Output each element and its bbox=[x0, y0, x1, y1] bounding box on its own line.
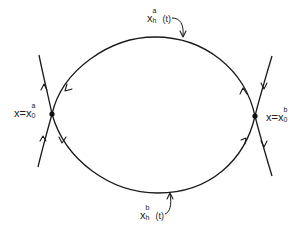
right-manifold-upper bbox=[255, 56, 272, 116]
arrow-right-lower-manifold-icon bbox=[261, 141, 267, 147]
label-sup: a bbox=[153, 7, 157, 14]
label-sub: 0 bbox=[283, 116, 287, 123]
label-sup: b bbox=[146, 204, 150, 211]
left-saddle-label: x=xa0 bbox=[14, 106, 38, 119]
heteroclinic-diagram bbox=[0, 0, 300, 233]
arrow-lower-orbit-right-icon bbox=[241, 138, 246, 144]
arrow-upper-orbit-left-icon bbox=[65, 84, 72, 91]
label-sub: 0 bbox=[31, 112, 35, 119]
label-arg: (t) bbox=[156, 211, 165, 221]
lower-orbit-label: xbh (t) bbox=[140, 208, 164, 221]
label-sup: a bbox=[31, 102, 35, 109]
right-saddle-label: x=xb0 bbox=[266, 110, 290, 123]
label-sub: h bbox=[146, 214, 150, 221]
left-saddle-point bbox=[49, 111, 54, 116]
lower-orbit bbox=[52, 114, 255, 193]
right-saddle-point bbox=[252, 113, 257, 118]
upper-orbit-label: xah (t) bbox=[147, 11, 171, 24]
label-arg: (t) bbox=[163, 14, 172, 24]
label-sub: h bbox=[153, 17, 157, 24]
left-manifold-upper bbox=[39, 55, 52, 114]
label-sup: b bbox=[283, 106, 287, 113]
upper-orbit bbox=[52, 37, 255, 116]
